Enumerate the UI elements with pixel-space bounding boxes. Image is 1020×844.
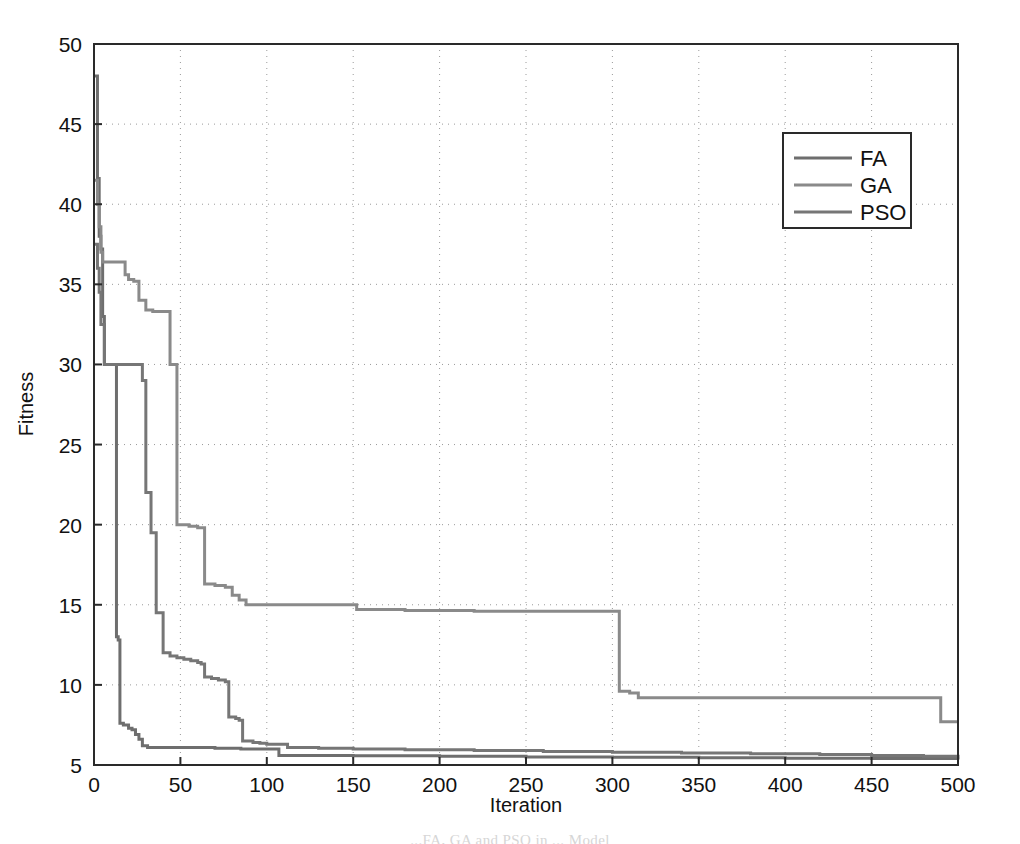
- y-axis-tick-labels: 5101520253035404550: [59, 33, 82, 777]
- x-tick-label: 50: [169, 773, 192, 796]
- x-tick-label: 200: [422, 773, 457, 796]
- y-tick-label: 10: [59, 674, 82, 697]
- fitness-convergence-chart: 050100150200250300350400450500 510152025…: [0, 0, 1020, 844]
- y-tick-label: 50: [59, 33, 82, 56]
- x-tick-label: 250: [508, 773, 543, 796]
- y-tick-label: 20: [59, 514, 82, 537]
- chart-legend[interactable]: FAGAPSO: [783, 133, 911, 228]
- figure-caption: ...FA, GA and PSO in ... Model: [0, 830, 1020, 844]
- y-axis-title: Fitness: [15, 372, 37, 436]
- y-tick-label: 25: [59, 434, 82, 457]
- x-axis-title: Iteration: [490, 794, 562, 816]
- x-tick-label: 150: [336, 773, 371, 796]
- x-tick-label: 100: [249, 773, 284, 796]
- x-tick-label: 400: [768, 773, 803, 796]
- y-tick-label: 40: [59, 193, 82, 216]
- figure-container: 050100150200250300350400450500 510152025…: [0, 0, 1020, 844]
- x-axis-tick-labels: 050100150200250300350400450500: [88, 773, 975, 796]
- legend-label-fa: FA: [860, 146, 887, 171]
- x-tick-label: 500: [940, 773, 975, 796]
- legend-label-ga: GA: [860, 173, 892, 198]
- x-tick-label: 450: [854, 773, 889, 796]
- x-tick-label: 300: [595, 773, 630, 796]
- x-tick-label: 350: [681, 773, 716, 796]
- legend-label-pso: PSO: [860, 200, 906, 225]
- y-tick-label: 30: [59, 353, 82, 376]
- y-tick-label: 15: [59, 594, 82, 617]
- y-tick-label: 45: [59, 113, 82, 136]
- x-tick-label: 0: [88, 773, 100, 796]
- y-tick-label: 5: [70, 754, 82, 777]
- y-tick-label: 35: [59, 273, 82, 296]
